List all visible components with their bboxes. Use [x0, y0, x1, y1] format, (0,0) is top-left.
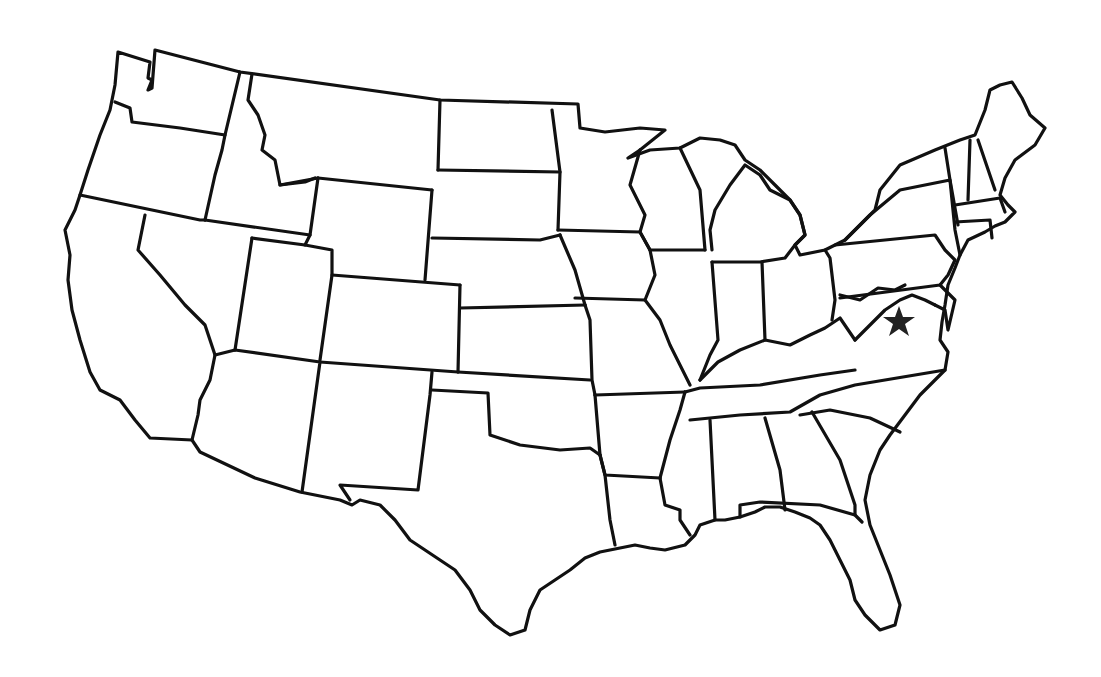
us-outline-map [0, 0, 1101, 677]
